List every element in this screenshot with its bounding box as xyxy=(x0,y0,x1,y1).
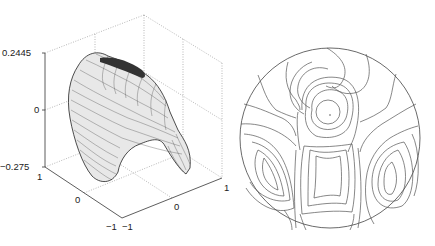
y-tick-0: 0 xyxy=(174,201,179,212)
contour-plot xyxy=(240,48,420,230)
z-tick-bottom: −0.275 xyxy=(0,161,29,172)
surface-mesh xyxy=(68,53,190,182)
x-tick-0: 0 xyxy=(75,194,80,205)
z-tick-top: 0.2445 xyxy=(2,47,31,58)
figure: 0.2445 0 −0.275 1 0 −1 −1 0 1 xyxy=(0,0,435,246)
x-tick-1: 1 xyxy=(37,171,42,182)
z-tick-mid: 0 xyxy=(34,104,39,115)
y-tick-1: 1 xyxy=(224,182,229,193)
y-tick-neg1: −1 xyxy=(122,221,133,232)
x-tick-neg1: −1 xyxy=(106,221,117,232)
peak-marker xyxy=(329,114,331,116)
